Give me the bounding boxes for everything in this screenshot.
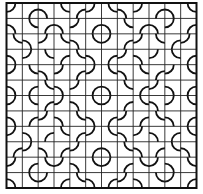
quarter-arc [156, 9, 165, 18]
quarter-arc [13, 148, 22, 157]
quarter-arc [70, 142, 79, 151]
quarter-arc [102, 34, 111, 43]
quarter-arc [102, 87, 111, 96]
quarter-arc [86, 179, 95, 188]
quarter-arc [181, 34, 190, 43]
quarter-arc [54, 87, 63, 96]
quarter-arc [156, 71, 165, 80]
quarter-arc [54, 25, 63, 34]
quarter-arc [70, 80, 79, 89]
quarter-arc [29, 117, 38, 126]
quarter-arc [108, 65, 117, 74]
quarter-arc [45, 49, 54, 58]
quarter-arc [124, 80, 133, 89]
quarter-arc [93, 34, 102, 43]
quarter-arc [54, 157, 63, 166]
quarter-arc [45, 133, 54, 142]
quarter-arc [45, 80, 54, 89]
quarter-arc [108, 179, 117, 188]
quarter-arc [77, 173, 86, 182]
quarter-arc [54, 65, 63, 74]
quarter-arc [7, 3, 16, 12]
quarter-arc [117, 173, 126, 182]
quarter-arc [54, 96, 63, 105]
quarter-arc [7, 56, 16, 65]
quarter-arc [22, 49, 31, 58]
quarter-arc [124, 142, 133, 151]
quarter-arc [124, 164, 133, 173]
quarter-arc [165, 18, 174, 27]
quarter-arc [165, 65, 174, 74]
quarter-arc [45, 157, 54, 166]
quarter-arc [45, 102, 54, 111]
quarter-arc [7, 179, 16, 188]
quarter-arc [140, 157, 149, 166]
quarter-arc [61, 3, 70, 12]
quarter-arc [188, 3, 197, 12]
quarter-arc [117, 71, 126, 80]
quarter-arc [38, 34, 47, 43]
quarter-arc [140, 96, 149, 105]
quarter-arc [124, 102, 133, 111]
quarter-arc [93, 87, 102, 96]
quarter-arc [45, 25, 54, 34]
quarter-arc [29, 87, 38, 96]
quarter-arc [38, 111, 47, 120]
quarter-arc [165, 173, 174, 182]
quarter-arc [13, 34, 22, 43]
quarter-arc [77, 9, 86, 18]
quarter-arc [181, 148, 190, 157]
quarter-arc [93, 148, 102, 157]
quarter-arc [172, 49, 181, 58]
quarter-arc [29, 164, 38, 173]
quarter-arc [188, 87, 197, 96]
quarter-arc [149, 102, 158, 111]
quarter-arc [165, 87, 174, 96]
quarter-arc [7, 117, 16, 126]
quarter-arc [7, 87, 16, 96]
quarter-arc [188, 65, 197, 74]
quarter-arc [61, 126, 70, 135]
quarter-arc [188, 117, 197, 126]
quarter-arc [77, 49, 86, 58]
quarter-arc [54, 117, 63, 126]
quarter-arc [165, 96, 174, 105]
quarter-arc [22, 142, 31, 151]
quarter-arc [102, 148, 111, 157]
quarter-arc [29, 173, 38, 182]
quarter-arc [188, 157, 197, 166]
quarter-arc [133, 3, 142, 12]
quarter-arc [29, 18, 38, 27]
quarter-arc [140, 25, 149, 34]
quarter-arc [102, 25, 111, 34]
quarter-arc [29, 9, 38, 18]
quarter-arc [140, 117, 149, 126]
grid-lines [7, 3, 197, 188]
quarter-arc [172, 40, 181, 49]
quarter-arc [172, 142, 181, 151]
quarter-arc [61, 148, 70, 157]
quarter-arc [22, 40, 31, 49]
quarter-arc [133, 148, 142, 157]
quarter-arc [108, 117, 117, 126]
quarter-arc [70, 40, 79, 49]
quarter-arc [117, 9, 126, 18]
quarter-arc [93, 96, 102, 105]
quarter-arc [38, 9, 47, 18]
quarter-arc [77, 111, 86, 120]
quarter-arc [188, 56, 197, 65]
quarter-arc [7, 157, 16, 166]
quarter-arc [7, 96, 16, 105]
quarter-arc [117, 133, 126, 142]
quarter-arc [165, 164, 174, 173]
quarter-arc [61, 34, 70, 43]
quarter-arc [7, 25, 16, 34]
quarter-arc [149, 49, 158, 58]
quarter-arc [77, 71, 86, 80]
quarter-arc [149, 80, 158, 89]
quarter-arc [108, 126, 117, 135]
quarter-arc [61, 56, 70, 65]
quarter-arc [38, 173, 47, 182]
quarter-arc [165, 117, 174, 126]
quarter-arc [7, 65, 16, 74]
